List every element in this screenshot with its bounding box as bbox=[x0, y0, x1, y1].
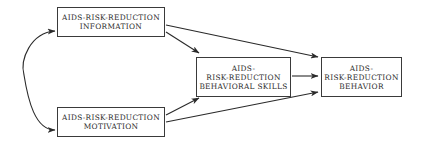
node-motivation: AIDS-RISK-REDUCTION MOTIVATION bbox=[57, 107, 165, 137]
node-behavior-line2: RISK-REDUCTION bbox=[324, 73, 398, 82]
node-behavior-line1: AIDS- bbox=[350, 64, 374, 73]
node-behavioral-skills: AIDS- RISK-REDUCTION BEHAVIORAL SKILLS bbox=[196, 57, 291, 97]
arrow-motivation-to-skills bbox=[166, 98, 199, 115]
node-behavior: AIDS- RISK-REDUCTION BEHAVIOR bbox=[321, 57, 402, 97]
node-skills-line2: RISK-REDUCTION bbox=[206, 73, 280, 82]
arrow-info-to-skills bbox=[166, 32, 199, 53]
node-skills-line3: BEHAVIORAL SKILLS bbox=[199, 82, 287, 91]
node-information-line2: INFORMATION bbox=[80, 22, 142, 31]
node-information-line1: AIDS-RISK-REDUCTION bbox=[62, 13, 160, 22]
node-skills-line1: AIDS- bbox=[232, 64, 256, 73]
correlation-arrow-info-motivation bbox=[23, 31, 55, 130]
arrow-info-to-behavior bbox=[166, 25, 318, 57]
node-behavior-line3: BEHAVIOR bbox=[339, 82, 384, 91]
node-information: AIDS-RISK-REDUCTION INFORMATION bbox=[57, 7, 165, 37]
node-motivation-line1: AIDS-RISK-REDUCTION bbox=[62, 113, 160, 122]
node-motivation-line2: MOTIVATION bbox=[84, 122, 139, 131]
